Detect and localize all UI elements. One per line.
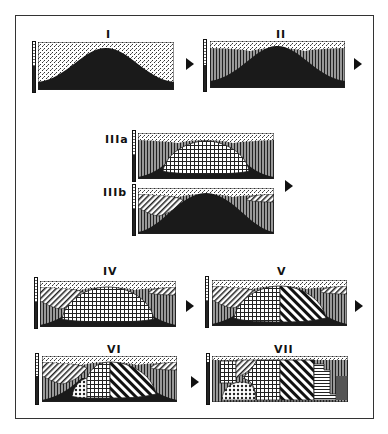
panel-label-vii: VII [274,343,294,356]
legend-bar-vii [206,353,210,405]
cross-section-ii [210,41,345,88]
cross-section-v [212,280,347,326]
arrow-right-icon [186,58,194,70]
cross-section-vii [212,356,348,402]
panel-label-iiib: IIIb [103,186,127,199]
cross-section-i [38,42,174,90]
cross-section-vi [42,356,177,402]
legend-bar-vi [35,353,39,405]
cross-section-iiib [138,188,274,234]
panel-label-vi: VI [107,343,122,356]
panel-label-v: V [277,265,287,278]
arrow-right-icon [191,376,199,388]
arrow-right-icon [285,180,293,192]
panel-label-i: I [106,28,111,41]
panel-label-iv: IV [103,265,118,278]
panel-label-iiia: IIIa [105,133,129,146]
arrow-right-icon [354,58,362,70]
legend-bar-iiib [132,184,136,236]
cross-section-iv [40,281,176,327]
panel-label-ii: II [276,28,286,41]
arrow-right-icon [186,300,194,312]
arrow-right-icon [355,300,363,312]
legend-bar-v [205,276,209,328]
legend-bar-iv [34,277,38,329]
legend-bar-i [32,41,36,93]
legend-bar-iiia [132,130,136,182]
cross-section-iiia [138,133,274,179]
legend-bar-ii [203,39,207,92]
